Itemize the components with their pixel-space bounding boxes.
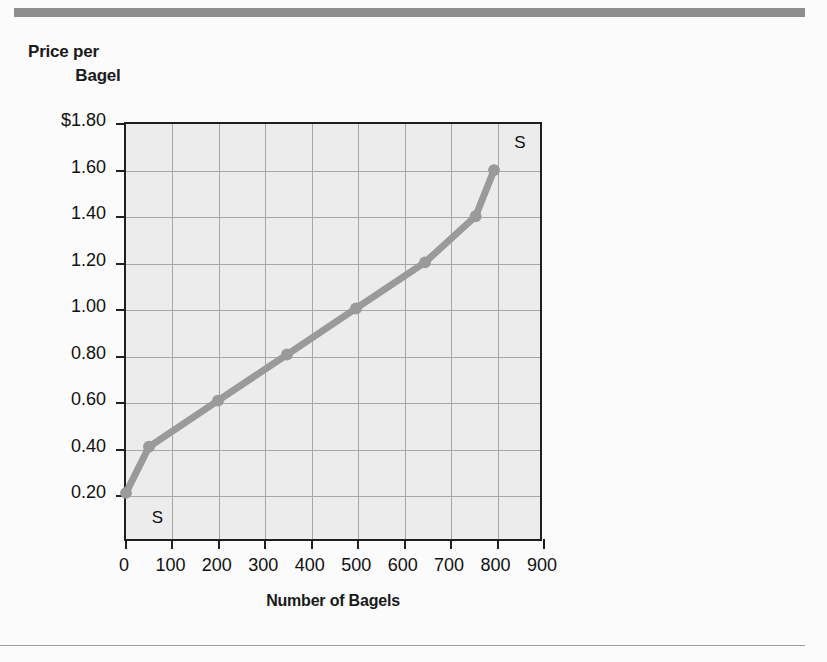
y-tick-label: 0.80 [0, 343, 106, 364]
x-axis-title: Number of Bagels [124, 592, 542, 610]
x-tick-label: 200 [192, 555, 242, 576]
y-axis-title: Price per Bagel [28, 40, 168, 88]
x-tick-label: 400 [285, 555, 335, 576]
y-tick-label: 1.20 [0, 250, 106, 271]
y-axis-title-line-2: Bagel [28, 64, 168, 88]
y-axis-tick [116, 123, 126, 125]
x-tick-label: 300 [238, 555, 288, 576]
bottom-divider-rule [0, 645, 805, 646]
y-axis-tick [116, 449, 126, 451]
y-axis-tick [116, 309, 126, 311]
supply-curve-line [126, 170, 494, 493]
x-tick-label: 600 [378, 555, 428, 576]
y-tick-label: 1.00 [0, 296, 106, 317]
x-axis-tick [497, 539, 499, 549]
data-point-marker [120, 487, 132, 499]
x-axis-tick [404, 539, 406, 549]
x-tick-label: 900 [517, 555, 567, 576]
x-tick-label: 100 [145, 555, 195, 576]
x-axis-tick [125, 539, 127, 549]
y-tick-label: 1.60 [0, 157, 106, 178]
data-point-marker [143, 441, 155, 453]
y-axis-tick [116, 263, 126, 265]
x-axis-tick [171, 539, 173, 549]
data-point-marker [281, 349, 293, 361]
x-axis-tick [218, 539, 220, 549]
y-axis-tick [116, 402, 126, 404]
y-tick-label: $1.80 [0, 110, 106, 131]
supply-curve-label-upper: S [514, 133, 525, 153]
series-layer [126, 124, 540, 539]
x-tick-label: 800 [471, 555, 521, 576]
y-tick-label: 0.40 [0, 436, 106, 457]
y-axis-tick [116, 216, 126, 218]
x-tick-label: 500 [331, 555, 381, 576]
x-axis-tick [311, 539, 313, 549]
y-tick-label: 0.20 [0, 482, 106, 503]
y-axis-tick [116, 356, 126, 358]
x-tick-label: 0 [99, 555, 149, 576]
x-axis-tick [357, 539, 359, 549]
y-axis-title-line-1: Price per [28, 40, 168, 64]
y-axis-tick [116, 170, 126, 172]
x-tick-label: 700 [424, 555, 474, 576]
plot-area [124, 122, 542, 541]
data-point-marker [488, 164, 500, 176]
data-point-marker [470, 210, 482, 222]
data-point-marker [419, 256, 431, 268]
data-point-marker [350, 303, 362, 315]
x-axis-tick [450, 539, 452, 549]
supply-curve-label-lower: S [152, 508, 163, 528]
x-axis-tick [543, 539, 545, 549]
y-tick-label: 1.40 [0, 203, 106, 224]
supply-curve-figure: Price per Bagel 0.200.400.600.801.001.20… [0, 0, 827, 645]
x-axis-tick [264, 539, 266, 549]
y-tick-label: 0.60 [0, 389, 106, 410]
data-point-marker [212, 395, 224, 407]
